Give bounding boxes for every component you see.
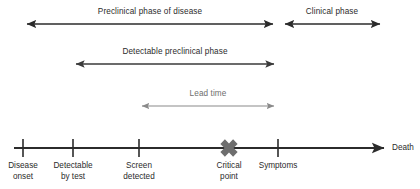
event-label-screen-detected: Screen detected bbox=[123, 160, 154, 182]
event-label-symptoms: Symptoms bbox=[259, 160, 298, 171]
event-label-line1: Symptoms bbox=[259, 161, 298, 170]
event-label-critical-point: Critical point bbox=[216, 160, 241, 182]
span-label-detectable-preclinical-phase: Detectable preclinical phase bbox=[122, 47, 227, 58]
span-label-preclinical-phase: Preclinical phase of disease bbox=[98, 7, 202, 18]
event-label-disease-onset: Disease onset bbox=[8, 160, 38, 182]
event-label-line2: point bbox=[216, 171, 241, 182]
event-label-line1: Detectable bbox=[53, 161, 92, 170]
screening-timeline-diagram: Preclinical phase of disease Clinical ph… bbox=[0, 0, 420, 189]
span-label-lead-time: Lead time bbox=[190, 89, 227, 100]
event-label-line1: Screen bbox=[126, 161, 152, 170]
event-label-line1: Critical bbox=[216, 161, 241, 170]
event-label-line2: onset bbox=[8, 171, 38, 182]
event-label-line2: detected bbox=[123, 171, 154, 182]
span-label-clinical-phase: Clinical phase bbox=[306, 7, 358, 18]
timeline-end-label-death: Death bbox=[392, 143, 414, 152]
event-label-line1: Disease bbox=[8, 161, 38, 170]
event-label-line2: by test bbox=[53, 171, 92, 182]
event-label-detectable-by-test: Detectable by test bbox=[53, 160, 92, 182]
